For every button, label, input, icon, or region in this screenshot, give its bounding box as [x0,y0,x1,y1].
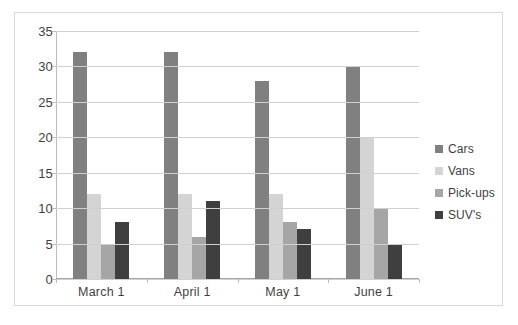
chart-container: 05101520253035 March 1April 1May 1June 1… [14,12,503,306]
y-axis-tick-label: 15 [25,166,53,179]
legend-item-cars[interactable]: Cars [435,138,507,160]
bar-group [147,31,238,279]
legend-item-pick-ups[interactable]: Pick-ups [435,182,507,204]
legend-item-suv-s[interactable]: SUV's [435,204,507,226]
bar-slot [206,31,220,279]
legend-item-vans[interactable]: Vans [435,160,507,182]
bar-pick-ups[interactable] [101,244,115,279]
y-axis-tick-mark [52,137,56,138]
legend-swatch-icon [435,211,443,219]
x-axis-category-label: March 1 [56,285,147,299]
bar-slot [374,31,388,279]
bar-slot [164,31,178,279]
bar-group [238,31,329,279]
plot-area [56,31,419,279]
legend-label: Cars [448,142,474,156]
x-axis-tick-mark [56,279,57,283]
bar-group [328,31,419,279]
gridline [56,208,419,209]
bar-vans[interactable] [87,194,101,279]
bar-slot [269,31,283,279]
y-axis-tick-mark [52,244,56,245]
bar-cars[interactable] [255,81,269,279]
y-axis-tick-mark [52,173,56,174]
bar-vans[interactable] [269,194,283,279]
bar-suv-s[interactable] [115,222,129,279]
chart-legend: CarsVansPick-upsSUV's [435,138,507,226]
legend-swatch-icon [435,167,443,175]
bar-slot [360,31,374,279]
gridline [56,31,419,32]
gridline [56,137,419,138]
legend-label: Vans [448,164,475,178]
bar-slot [101,31,115,279]
gridline [56,244,419,245]
bar-slot [388,31,402,279]
bar-cars[interactable] [164,52,178,279]
gridline [56,102,419,103]
bar-slot [115,31,129,279]
y-axis-tick-label: 10 [25,202,53,215]
bar-slot [87,31,101,279]
bar-slot [192,31,206,279]
legend-label: Pick-ups [448,186,495,200]
bar-groups [56,31,419,279]
bar-slot [297,31,311,279]
y-axis-tick-mark [52,66,56,67]
x-axis-category-label: April 1 [147,285,238,299]
bar-vans[interactable] [178,194,192,279]
legend-label: SUV's [448,208,481,222]
y-axis-labels: 05101520253035 [21,13,53,305]
y-axis-tick-label: 30 [25,60,53,73]
y-axis-tick-mark [52,208,56,209]
y-axis-tick-mark [52,102,56,103]
bar-suv-s[interactable] [297,229,311,279]
y-axis-tick-label: 0 [25,273,53,286]
bar-cars[interactable] [73,52,87,279]
x-axis-labels: March 1April 1May 1June 1 [56,285,419,299]
bar-slot [73,31,87,279]
x-axis-category-label: May 1 [238,285,329,299]
bar-group [56,31,147,279]
x-axis-tick-mark [147,279,148,283]
bar-slot [255,31,269,279]
y-axis-tick-label: 25 [25,95,53,108]
y-axis-tick-label: 5 [25,237,53,250]
bar-pick-ups[interactable] [283,222,297,279]
y-axis-tick-mark [52,31,56,32]
bar-slot [346,31,360,279]
bar-slot [178,31,192,279]
bar-slot [283,31,297,279]
y-axis-tick-label: 35 [25,25,53,38]
y-axis-tick-label: 20 [25,131,53,144]
x-axis-tick-mark [419,279,420,283]
bar-suv-s[interactable] [206,201,220,279]
gridline [56,173,419,174]
gridline [56,66,419,67]
plot-wrapper: 05101520253035 March 1April 1May 1June 1… [15,13,502,305]
x-axis-tick-mark [328,279,329,283]
x-axis-category-label: June 1 [328,285,419,299]
x-axis-tick-mark [238,279,239,283]
bar-suv-s[interactable] [388,244,402,279]
legend-swatch-icon [435,145,443,153]
legend-swatch-icon [435,189,443,197]
